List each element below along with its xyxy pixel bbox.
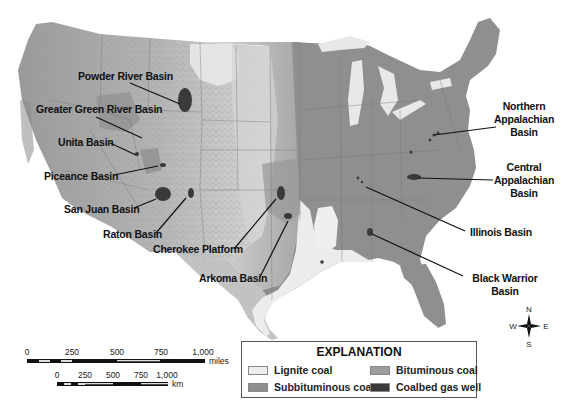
- label-northern-appalachian-basin: Northern Appalachian Basin: [494, 100, 554, 138]
- compass-s: S: [526, 340, 531, 349]
- svg-text:0: 0: [55, 370, 60, 380]
- label-powder-river-basin: Powder River Basin: [78, 70, 173, 82]
- powder-river-wells: [178, 88, 192, 112]
- svg-text:Appalachian: Appalachian: [494, 113, 554, 125]
- svg-text:250: 250: [78, 370, 92, 380]
- scale-unit-km: km: [172, 379, 183, 389]
- raton-wells: [188, 188, 194, 198]
- scale-bar-km: 0 250 500 750 1,000 km: [55, 370, 184, 389]
- scale-unit-miles: miles: [209, 356, 229, 366]
- svg-text:Basin: Basin: [491, 285, 519, 297]
- compass-e: E: [543, 322, 548, 331]
- cherokee-wells: [277, 186, 285, 200]
- svg-text:750: 750: [134, 370, 148, 380]
- swatch-coalbed-gas: [370, 383, 390, 392]
- label-arkoma-basin: Arkoma Basin: [199, 272, 267, 284]
- compass-w: W: [509, 322, 517, 331]
- svg-text:Central: Central: [507, 161, 542, 173]
- label-central-appalachian-basin: Central Appalachian Basin: [494, 161, 554, 199]
- label-san-juan-basin: San Juan Basin: [64, 203, 139, 215]
- svg-text:250: 250: [65, 347, 79, 357]
- svg-text:Appalachian: Appalachian: [494, 174, 554, 186]
- legend-item-subbituminous: Subbituminous coal: [248, 381, 374, 393]
- label-illinois-basin: Illinois Basin: [470, 226, 532, 238]
- coal-map: Powder River Basin Greater Green River B…: [0, 0, 571, 417]
- svg-text:Basin: Basin: [510, 187, 538, 199]
- swatch-bituminous: [370, 366, 390, 375]
- swatch-lignite: [248, 366, 268, 375]
- svg-text:Basin: Basin: [510, 126, 538, 138]
- svg-text:500: 500: [106, 370, 120, 380]
- florida-land: [400, 264, 446, 328]
- scale-bar-miles: 0 250 500 750 1,000 miles: [25, 347, 229, 366]
- legend-item-bituminous: Bituminous coal: [370, 364, 478, 376]
- svg-text:Northern: Northern: [503, 100, 546, 112]
- legend: EXPLANATION Lignite coal Bituminous coal…: [241, 341, 477, 398]
- compass-n: N: [526, 305, 532, 314]
- label-unita-basin: Unita Basin: [58, 136, 114, 148]
- label-raton-basin: Raton Basin: [103, 228, 162, 240]
- compass-rose: N S W E: [509, 305, 548, 349]
- svg-text:0: 0: [25, 347, 30, 357]
- label-greater-green-river-basin: Greater Green River Basin: [36, 103, 162, 115]
- svg-text:750: 750: [154, 347, 168, 357]
- legend-item-coalbed-gas: Coalbed gas well: [370, 381, 481, 393]
- label-black-warrior-basin: Black Warrior Basin: [472, 272, 537, 297]
- swatch-subbituminous: [248, 383, 268, 392]
- svg-text:500: 500: [110, 347, 124, 357]
- central-appalachian-wells: [407, 174, 421, 180]
- san-juan-wells: [155, 187, 171, 201]
- piceance-wells: [160, 163, 166, 167]
- lignite-mississippi: [314, 206, 338, 252]
- label-cherokee-platform: Cherokee Platform: [153, 243, 243, 255]
- label-piceance-basin: Piceance Basin: [44, 170, 118, 182]
- legend-title: EXPLANATION: [242, 345, 476, 359]
- arkoma-wells: [284, 213, 292, 219]
- svg-text:Black Warrior: Black Warrior: [472, 272, 537, 284]
- legend-item-lignite: Lignite coal: [248, 364, 332, 376]
- black-warrior-wells: [367, 228, 373, 236]
